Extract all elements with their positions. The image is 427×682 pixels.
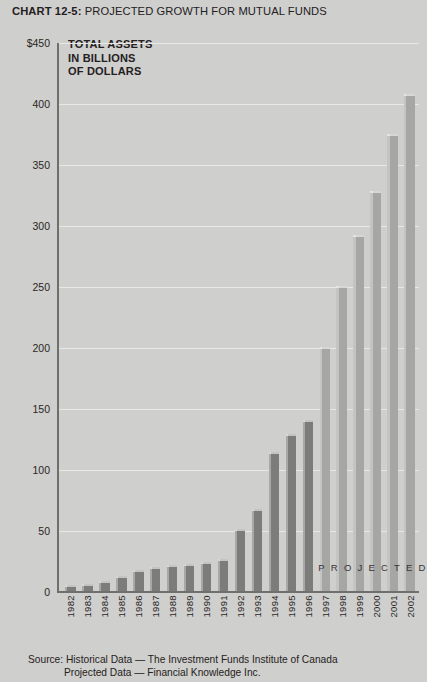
x-tick-label-1988: 1988 <box>167 595 178 618</box>
bar-left-highlight <box>133 570 135 591</box>
bar-left-highlight <box>235 529 237 591</box>
y-tick-label-400: 400 <box>2 98 50 110</box>
source-note: Source: Historical Data — The Investment… <box>28 639 338 682</box>
bar-left-highlight <box>99 581 101 591</box>
bar-1993 <box>252 509 263 591</box>
bar-left-highlight <box>150 567 152 591</box>
bar-left-highlight <box>320 347 322 591</box>
bar-body <box>167 565 178 591</box>
bar-left-highlight <box>387 134 389 592</box>
source-line-2: Projected Data — Financial Knowledge Inc… <box>28 666 338 680</box>
bar-left-highlight <box>336 286 338 591</box>
bar-body <box>218 559 229 591</box>
bar-left-highlight <box>404 94 406 591</box>
bar-left-highlight <box>65 585 67 591</box>
bar-body <box>235 529 246 591</box>
chart-title-text: PROJECTED GROWTH FOR MUTUAL FUNDS <box>81 5 326 17</box>
bar-body <box>150 567 161 591</box>
bar-1994 <box>269 452 280 591</box>
x-tick-label-1984: 1984 <box>99 595 110 618</box>
bar-1997 <box>320 347 331 591</box>
bar-left-highlight <box>353 235 355 591</box>
x-tick-label-1998: 1998 <box>337 595 348 618</box>
bar-1998 <box>336 286 347 591</box>
x-tick-label-1994: 1994 <box>269 595 280 618</box>
bar-left-highlight <box>370 191 372 591</box>
bar-left-highlight <box>286 434 288 591</box>
y-tick-label-350: 350 <box>2 159 50 171</box>
bar-2001 <box>387 134 398 592</box>
bar-body <box>387 134 398 592</box>
x-tick-label-1991: 1991 <box>218 595 229 618</box>
x-tick-label-1990: 1990 <box>201 595 212 618</box>
source-line-1: Source: Historical Data — The Investment… <box>28 654 338 665</box>
bar-1985 <box>116 576 127 591</box>
bar-2002 <box>404 94 415 591</box>
bar-1996 <box>303 420 314 591</box>
bar-body <box>286 434 297 591</box>
bar-1982 <box>65 585 76 591</box>
bar-body <box>201 562 212 591</box>
bar-left-highlight <box>218 559 220 591</box>
y-tick-label-150: 150 <box>2 403 50 415</box>
x-tick-label-1999: 1999 <box>354 595 365 618</box>
bar-1991 <box>218 559 229 591</box>
bar-1983 <box>82 584 93 591</box>
projected-annotation: PROJECTED <box>318 562 427 573</box>
bar-body <box>320 347 331 591</box>
bar-body <box>353 235 364 591</box>
bar-left-highlight <box>167 565 169 591</box>
bar-1986 <box>133 570 144 591</box>
x-tick-label-1993: 1993 <box>252 595 263 618</box>
bar-1989 <box>184 564 195 591</box>
bar-body <box>82 584 93 591</box>
x-tick-label-1992: 1992 <box>235 595 246 618</box>
page-title: CHART 12-5: PROJECTED GROWTH FOR MUTUAL … <box>12 5 327 17</box>
bar-body <box>133 570 144 591</box>
bar-left-highlight <box>303 420 305 591</box>
bar-body <box>252 509 263 591</box>
bar-body <box>65 585 76 591</box>
y-tick-label-200: 200 <box>2 342 50 354</box>
y-tick-label-250: 250 <box>2 281 50 293</box>
bar-body <box>336 286 347 591</box>
bar-1987 <box>150 567 161 591</box>
bar-body <box>370 191 381 591</box>
y-tick-label-450: $450 <box>2 37 50 49</box>
x-tick-label-1983: 1983 <box>82 595 93 618</box>
chart-number: CHART 12-5: <box>12 5 81 17</box>
bar-1988 <box>167 565 178 591</box>
x-tick-label-2002: 2002 <box>405 595 416 618</box>
x-tick-label-1986: 1986 <box>133 595 144 618</box>
x-axis-ticks: 1982198319841985198619871988198919901991… <box>57 592 419 638</box>
x-tick-label-2001: 2001 <box>388 595 399 618</box>
bar-1995 <box>286 434 297 591</box>
x-tick-label-1995: 1995 <box>286 595 297 618</box>
bar-body <box>184 564 195 591</box>
x-tick-label-1989: 1989 <box>184 595 195 618</box>
bar-body <box>303 420 314 591</box>
x-tick-label-1985: 1985 <box>116 595 127 618</box>
bar-1990 <box>201 562 212 591</box>
x-tick-label-1997: 1997 <box>320 595 331 618</box>
bar-left-highlight <box>269 452 271 591</box>
bar-left-highlight <box>201 562 203 591</box>
bar-1992 <box>235 529 246 591</box>
bar-body <box>269 452 280 591</box>
bar-2000 <box>370 191 381 591</box>
bar-1984 <box>99 581 110 591</box>
bar-left-highlight <box>116 576 118 591</box>
y-tick-label-50: 50 <box>2 525 50 537</box>
bar-body <box>116 576 127 591</box>
bar-body <box>99 581 110 591</box>
x-tick-label-2000: 2000 <box>371 595 382 618</box>
y-tick-label-300: 300 <box>2 220 50 232</box>
bar-left-highlight <box>252 509 254 591</box>
bar-series <box>57 43 419 592</box>
bar-body <box>404 94 415 591</box>
y-tick-label-0: 0 <box>2 586 50 598</box>
x-tick-label-1996: 1996 <box>303 595 314 618</box>
x-tick-label-1982: 1982 <box>65 595 76 618</box>
y-axis-ticks: 050100150200250300350400$450 <box>0 43 50 592</box>
bar-left-highlight <box>82 584 84 591</box>
